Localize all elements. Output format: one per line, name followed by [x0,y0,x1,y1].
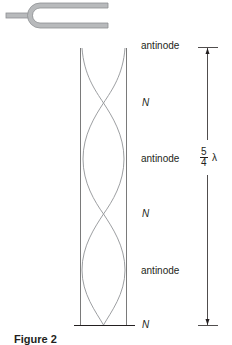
label-node-bottom: N [142,319,149,331]
arrow-down-icon [206,319,210,325]
fraction-denominator: 4 [200,158,208,168]
label-node-2: N [142,208,149,220]
tuning-fork-icon [6,3,108,28]
lambda-symbol: λ [212,152,217,163]
label-node-1: N [142,97,149,109]
figure-caption: Figure 2 [14,333,57,345]
standing-wave [82,48,125,325]
label-antinode-middle: antinode [141,153,179,165]
length-fraction: 5 4 [200,147,208,168]
label-antinode-top: antinode [141,40,179,52]
length-arrow [198,48,218,326]
label-antinode-bottom: antinode [141,265,179,277]
arrow-up-icon [206,48,210,54]
